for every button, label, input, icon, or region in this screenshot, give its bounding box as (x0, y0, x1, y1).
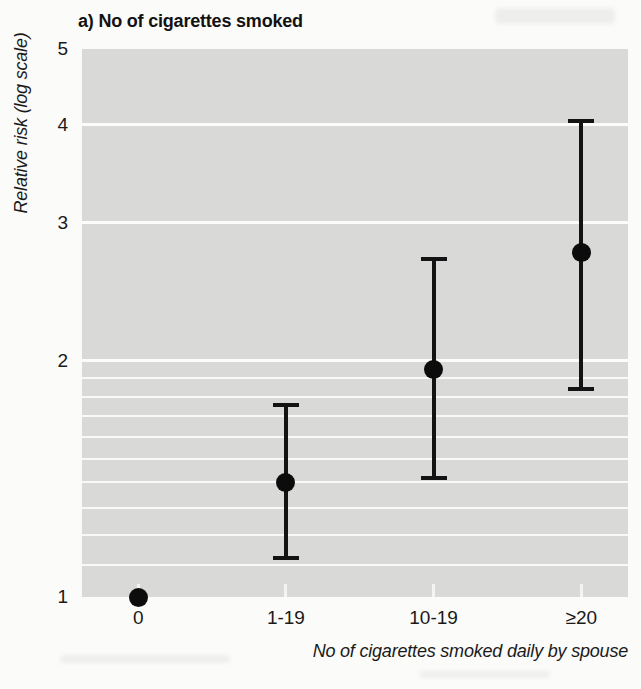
y-tick-label: 5 (26, 37, 68, 61)
y-tick-label: 2 (26, 349, 68, 373)
gridline-minor (82, 564, 628, 566)
gridline-minor (82, 377, 628, 379)
gridline-minor (82, 415, 628, 417)
gridline-minor (82, 481, 628, 483)
data-point (276, 473, 295, 492)
gridline-minor (82, 396, 628, 398)
gridline-major (82, 221, 628, 224)
gridline-minor (82, 534, 628, 536)
y-tick-label: 1 (26, 585, 68, 609)
x-axis-label: No of cigarettes smoked daily by spouse (228, 641, 628, 662)
scan-artifact (420, 671, 550, 678)
gridline-minor (82, 507, 628, 509)
gridline-minor (82, 436, 628, 438)
gridline-major (82, 359, 628, 362)
gridline-minor (82, 458, 628, 460)
figure-title: a) No of cigarettes smoked (78, 11, 303, 32)
error-bar-cap-bottom (273, 556, 299, 560)
x-tick-label: ≥20 (526, 606, 636, 630)
x-tick-label: 1-19 (231, 606, 341, 630)
error-bar-cap-top (568, 119, 594, 123)
gridline-major (82, 123, 628, 126)
scan-artifact (60, 655, 230, 663)
error-bar-cap-bottom (421, 476, 447, 480)
x-axis-tick (580, 584, 583, 597)
data-point (129, 588, 148, 607)
x-tick-label: 10-19 (379, 606, 489, 630)
y-tick-label: 3 (26, 211, 68, 235)
error-bar-cap-top (273, 403, 299, 407)
y-tick-label: 4 (26, 113, 68, 137)
error-bar-cap-top (421, 257, 447, 261)
data-point (572, 243, 591, 262)
scan-artifact (495, 8, 615, 24)
x-axis-tick (284, 584, 287, 597)
data-point (424, 360, 443, 379)
plot-area (82, 49, 628, 597)
x-axis-tick (432, 584, 435, 597)
error-bar-cap-bottom (568, 387, 594, 391)
x-tick-label: 0 (83, 606, 193, 630)
